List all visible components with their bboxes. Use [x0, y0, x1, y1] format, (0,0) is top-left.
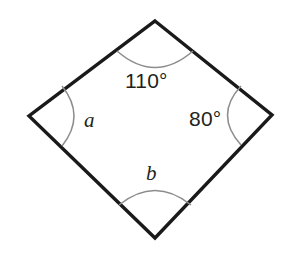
angle-label-top: 110°	[125, 70, 168, 91]
angle-label-bottom: b	[146, 163, 157, 184]
quadrilateral-diagram: 110° 80° a b	[0, 0, 281, 265]
diagram-canvas	[0, 0, 281, 265]
angle-label-left: a	[84, 110, 95, 131]
quadrilateral-outline	[29, 21, 272, 238]
angle-label-right: 80°	[189, 108, 221, 129]
